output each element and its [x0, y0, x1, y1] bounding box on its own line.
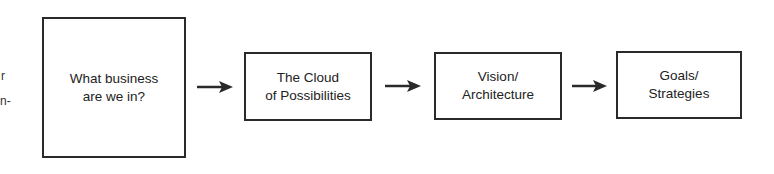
node-goals-strategies: Goals/ Strategies	[616, 51, 742, 119]
node-what-business: What business are we in?	[42, 17, 186, 158]
node-vision-architecture: Vision/ Architecture	[434, 52, 562, 120]
node-label: The Cloud of Possibilities	[265, 69, 351, 105]
node-label: What business are we in?	[70, 70, 159, 106]
node-label: Vision/ Architecture	[462, 68, 534, 104]
node-cloud-of-possibilities: The Cloud of Possibilities	[244, 52, 372, 121]
left-fragment-r: r	[1, 69, 5, 83]
arrow-right-icon	[197, 80, 234, 94]
arrow-right-icon	[385, 79, 422, 93]
arrow-right-icon	[572, 79, 608, 93]
node-label: Goals/ Strategies	[649, 67, 710, 103]
left-fragment-n: n-	[0, 94, 11, 108]
